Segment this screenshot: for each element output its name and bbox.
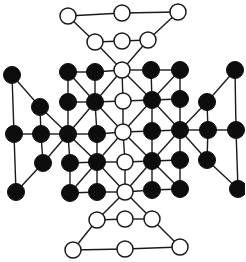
black-piece-icon	[89, 126, 106, 143]
white-piece-icon	[115, 93, 131, 109]
black-piece-icon	[144, 153, 161, 170]
game-board-diagram	[0, 0, 245, 262]
black-piece-icon	[172, 152, 189, 169]
black-piece-icon	[87, 64, 104, 81]
black-piece-icon	[62, 185, 79, 202]
white-piece-icon	[114, 33, 130, 49]
black-piece-icon	[228, 122, 245, 139]
black-piece-icon	[62, 155, 79, 172]
black-piece-icon	[60, 94, 77, 111]
white-piece-icon	[114, 5, 130, 21]
black-piece-icon	[144, 123, 161, 140]
white-piece-icon	[114, 62, 130, 78]
black-piece-icon	[199, 94, 216, 111]
black-piece-icon	[89, 154, 106, 171]
black-piece-icon	[144, 92, 161, 109]
black-piece-icon	[144, 182, 161, 199]
white-piece-icon	[170, 4, 186, 20]
black-piece-icon	[172, 181, 189, 198]
white-piece-icon	[172, 239, 188, 255]
black-piece-icon	[172, 122, 189, 139]
black-piece-icon	[87, 94, 104, 111]
black-piece-icon	[143, 62, 160, 79]
white-piece-icon	[89, 212, 105, 228]
white-piece-icon	[60, 8, 76, 24]
white-piece-icon	[144, 211, 160, 227]
white-piece-icon	[117, 184, 133, 200]
black-piece-icon	[32, 99, 49, 116]
white-piece-icon	[115, 124, 131, 140]
black-piece-icon	[4, 67, 21, 84]
black-piece-icon	[6, 126, 23, 143]
white-piece-icon	[65, 242, 81, 258]
black-piece-icon	[200, 122, 217, 139]
white-piece-icon	[117, 241, 133, 257]
black-piece-icon	[172, 62, 189, 79]
black-piece-icon	[227, 62, 244, 79]
black-piece-icon	[35, 155, 52, 172]
white-piece-icon	[117, 211, 133, 227]
black-piece-icon	[172, 91, 189, 108]
white-piece-icon	[140, 32, 156, 48]
black-piece-icon	[8, 184, 25, 201]
black-piece-icon	[33, 126, 50, 143]
black-piece-icon	[230, 181, 246, 198]
board-line	[235, 70, 236, 130]
black-piece-icon	[89, 184, 106, 201]
white-piece-icon	[87, 34, 103, 50]
black-piece-icon	[60, 126, 77, 143]
white-piece-icon	[117, 154, 133, 170]
black-piece-icon	[60, 64, 77, 81]
black-piece-icon	[199, 152, 216, 169]
